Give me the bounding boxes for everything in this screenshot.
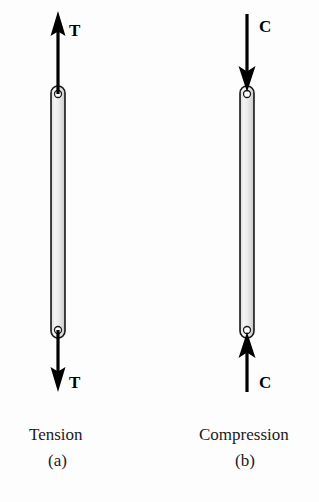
caption-tension: Tension (29, 426, 83, 443)
force-label-bottom-tension: T (69, 374, 80, 391)
force-label-top-compression: C (259, 18, 271, 35)
caption-index-b: (b) (235, 452, 255, 469)
caption-index-a: (a) (48, 452, 67, 469)
figure-root: T T C C Tension (a) Compression (b) (0, 0, 319, 502)
panel-compression (239, 14, 256, 392)
force-label-top-tension: T (69, 22, 80, 39)
bar-tension (51, 86, 65, 338)
caption-compression: Compression (199, 426, 289, 443)
force-label-bottom-compression: C (259, 374, 271, 391)
bar-compression (240, 86, 254, 338)
